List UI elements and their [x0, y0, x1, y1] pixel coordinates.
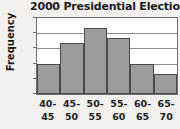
bar [60, 43, 83, 94]
bar-cell [154, 18, 177, 94]
x-axis-tick-label: 50-55 [83, 97, 107, 127]
bar [154, 74, 177, 94]
x-axis-tick-label-upper: 50- [83, 97, 107, 110]
bar-series [37, 18, 177, 94]
y-axis-title: Frequency [5, 7, 17, 77]
x-axis-tick-label: 40-45 [36, 97, 60, 127]
x-axis-tick-label: 60-65 [131, 97, 155, 127]
histogram-chart: 2000 Presidential Election Frequency 036… [0, 0, 180, 129]
x-axis-tick-label-upper: 60- [131, 97, 155, 110]
bar [130, 64, 153, 94]
x-axis-tick-label: 65-70 [154, 97, 178, 127]
bar-cell [107, 18, 130, 94]
bar-cell [60, 18, 83, 94]
bar [37, 64, 60, 94]
bar [107, 38, 130, 94]
bar-cell [84, 18, 107, 94]
bar [84, 28, 107, 94]
x-axis-tick-label: 55-60 [107, 97, 131, 127]
x-axis-tick-label-upper: 40- [36, 97, 60, 110]
x-axis-tick-label-lower: 45 [36, 110, 60, 123]
x-axis-tick-label-upper: 65- [154, 97, 178, 110]
bar-cell [37, 18, 60, 94]
x-axis-tick-label-lower: 65 [131, 110, 155, 123]
x-axis-tick-label-lower: 55 [83, 110, 107, 123]
x-axis-tick-labels: 40-4545-5050-5555-6060-6565-70 [36, 97, 178, 127]
x-axis-tick-label-upper: 55- [107, 97, 131, 110]
bar-cell [130, 18, 153, 94]
x-axis-tick-label-lower: 70 [154, 110, 178, 123]
x-axis-tick-label: 45-50 [60, 97, 84, 127]
x-axis-tick-label-upper: 45- [60, 97, 84, 110]
x-axis-tick-label-lower: 50 [60, 110, 84, 123]
chart-title: 2000 Presidential Election [30, 0, 180, 14]
x-axis-tick-label-lower: 60 [107, 110, 131, 123]
plot-area [36, 17, 178, 95]
